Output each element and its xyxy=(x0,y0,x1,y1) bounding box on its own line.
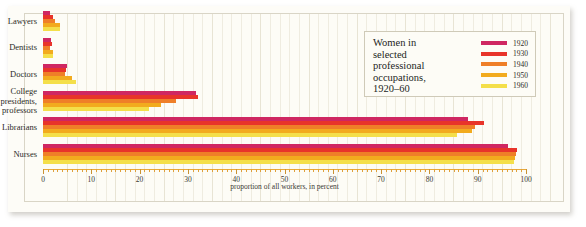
legend-row: 1960 xyxy=(481,80,528,91)
axis-tick xyxy=(487,169,488,172)
axis-tick xyxy=(502,169,503,172)
axis-tick xyxy=(439,169,440,172)
category-label: Librarians xyxy=(2,123,37,133)
axis-tick xyxy=(96,169,97,172)
axis-tick xyxy=(106,169,107,172)
axis-tick xyxy=(265,169,266,172)
axis-tick xyxy=(367,169,368,172)
axis-tick xyxy=(72,169,73,172)
axis-tick xyxy=(478,169,479,174)
axis-tick xyxy=(468,169,469,172)
axis-tick xyxy=(140,169,141,174)
bar xyxy=(43,133,457,137)
axis-tick xyxy=(130,169,131,172)
legend-year-label: 1940 xyxy=(513,60,528,69)
axis-tick xyxy=(82,169,83,172)
axis-tick xyxy=(43,169,44,174)
axis-tick xyxy=(48,169,49,172)
axis-tick xyxy=(507,169,508,172)
legend-year-label: 1920 xyxy=(513,39,528,48)
axis-tick xyxy=(101,169,102,172)
axis-tick xyxy=(251,169,252,172)
axis-tick xyxy=(323,169,324,172)
category-label: Lawyers xyxy=(8,17,37,27)
axis-tick xyxy=(415,169,416,172)
axis-tick xyxy=(285,169,286,174)
axis-tick xyxy=(231,169,232,172)
axis-tick xyxy=(154,169,155,172)
axis-tick xyxy=(111,169,112,172)
legend-entries: 19201930194019501960 xyxy=(481,37,528,91)
bar-group: Nurses xyxy=(43,144,526,165)
axis-tick xyxy=(410,169,411,172)
axis-tick xyxy=(62,169,63,172)
axis-tick xyxy=(521,169,522,172)
axis-tick xyxy=(198,169,199,172)
axis-tick xyxy=(497,169,498,172)
bar xyxy=(43,80,76,84)
axis-tick xyxy=(222,169,223,172)
axis-tick xyxy=(241,169,242,172)
axis-tick xyxy=(338,169,339,172)
axis-tick xyxy=(454,169,455,172)
axis-tick xyxy=(202,169,203,172)
axis-tick xyxy=(53,169,54,172)
axis-tick xyxy=(120,169,121,172)
axis-tick xyxy=(309,169,310,172)
axis-tick xyxy=(492,169,493,172)
legend-swatch xyxy=(481,73,507,77)
axis-tick xyxy=(207,169,208,172)
axis-tick xyxy=(328,169,329,172)
axis-tick xyxy=(304,169,305,172)
legend-swatch xyxy=(481,52,507,56)
legend-swatch xyxy=(481,62,507,66)
axis-tick xyxy=(425,169,426,172)
bar-group: Lawyers xyxy=(43,11,526,32)
axis-tick xyxy=(188,169,189,174)
axis-tick xyxy=(173,169,174,172)
axis-tick xyxy=(91,169,92,174)
axis-tick xyxy=(449,169,450,172)
legend-swatch xyxy=(481,41,507,45)
axis-tick xyxy=(362,169,363,172)
axis-tick xyxy=(313,169,314,172)
axis-tick xyxy=(115,169,116,172)
legend-year-label: 1950 xyxy=(513,71,528,80)
axis-tick xyxy=(318,169,319,172)
axis-tick xyxy=(483,169,484,172)
legend-year-label: 1960 xyxy=(513,81,528,90)
axis-tick xyxy=(512,169,513,172)
axis-tick xyxy=(178,169,179,172)
axis-tick xyxy=(212,169,213,172)
axis-tick xyxy=(260,169,261,172)
axis-tick xyxy=(400,169,401,172)
axis-tick xyxy=(391,169,392,172)
axis-tick xyxy=(396,169,397,172)
axis-tick xyxy=(420,169,421,172)
axis-tick xyxy=(67,169,68,172)
axis-tick xyxy=(280,169,281,172)
legend-row: 1920 xyxy=(481,38,528,49)
x-axis: 0102030405060708090100 xyxy=(43,169,526,170)
axis-tick xyxy=(381,169,382,174)
category-label: Dentists xyxy=(9,43,37,53)
axis-tick xyxy=(86,169,87,172)
axis-tick xyxy=(352,169,353,172)
axis-tick xyxy=(144,169,145,172)
legend-row: 1950 xyxy=(481,70,528,81)
axis-tick xyxy=(227,169,228,172)
bar xyxy=(43,160,514,164)
legend-swatch xyxy=(481,84,507,88)
axis-tick xyxy=(347,169,348,172)
bar xyxy=(43,54,53,58)
category-label: Nurses xyxy=(13,150,37,160)
axis-tick xyxy=(444,169,445,172)
category-label: Collegepresidents,professors xyxy=(0,87,37,116)
axis-tick xyxy=(270,169,271,172)
axis-tick xyxy=(125,169,126,172)
legend-year-label: 1930 xyxy=(513,49,528,58)
axis-tick xyxy=(357,169,358,172)
axis-tick xyxy=(159,169,160,172)
bar xyxy=(43,107,149,111)
axis-tick xyxy=(57,169,58,172)
